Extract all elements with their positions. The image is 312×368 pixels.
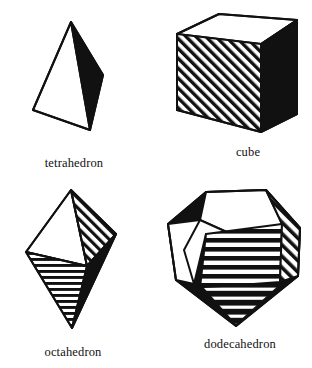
- figure-dodecahedron: dodecahedron: [156, 184, 312, 368]
- cube-label: cube: [236, 146, 260, 159]
- figure-cube: cube: [156, 0, 312, 184]
- figure-octahedron: octahedron: [0, 184, 156, 368]
- octahedron-drawing: [14, 186, 134, 334]
- octahedron-label: octahedron: [44, 346, 101, 359]
- tetrahedron-drawing: [15, 14, 135, 149]
- dodecahedron-label: dodecahedron: [204, 338, 276, 351]
- figure-tetrahedron: tetrahedron: [0, 0, 156, 184]
- dodecahedron-face-center-striped: [200, 224, 282, 288]
- dodecahedron-drawing: [162, 184, 310, 332]
- platonic-solids-plate: tetrahedron cube: [0, 0, 312, 368]
- cube-drawing: [165, 8, 305, 136]
- cube-face-left-hatched: [177, 34, 261, 132]
- tetrahedron-label: tetrahedron: [45, 157, 104, 170]
